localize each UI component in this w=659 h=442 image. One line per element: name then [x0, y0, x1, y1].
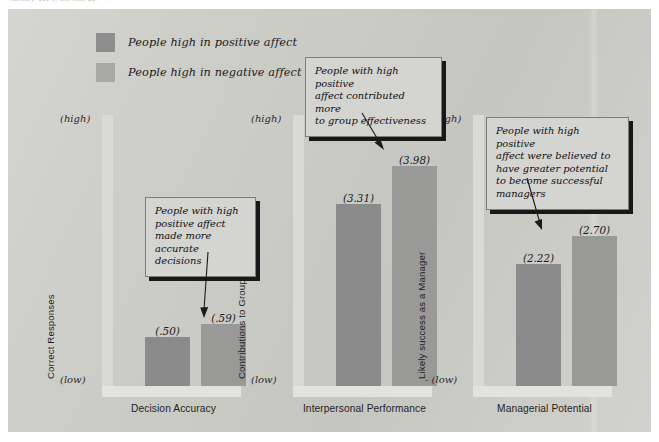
bar-positive-2: (3.31): [336, 204, 381, 386]
bar-rect-2-positive: [336, 204, 381, 386]
callout-managerial-potential: People with high positive affect were be…: [486, 117, 629, 210]
y-axis-title-1: Correct Responses: [45, 294, 56, 379]
legend-item-negative: People high in negative affect: [96, 61, 302, 84]
axis-high-label-2: (high): [251, 113, 281, 124]
bar-rect-3-negative: [572, 236, 617, 386]
legend-swatch-positive: [96, 33, 115, 52]
x-axis-bar-1: [102, 386, 241, 397]
y-axis-bar-1: [102, 115, 113, 387]
x-axis-title-2: Interpersonal Performance: [293, 403, 436, 414]
chart-panel-interpersonal-performance: (high) (low) Contributions to Group Effe…: [251, 113, 436, 413]
chart-legend: People high in positive affect People hi…: [96, 31, 302, 91]
bar-value-label-3-negative: (2.70): [579, 224, 610, 236]
legend-label-positive: People high in positive affect: [128, 36, 297, 49]
legend-swatch-negative: [96, 63, 115, 82]
axis-low-label-3: - (low): [425, 374, 457, 385]
top-caption: nanuary, 1994), see note 23.: [10, 0, 97, 3]
bar-positive-3: (2.22): [516, 264, 561, 386]
bar-positive-1: (.50): [145, 337, 190, 386]
bar-rect-1-positive: [145, 337, 190, 386]
bar-negative-3: (2.70): [572, 236, 617, 386]
y-axis-title-3: Likely success as a Manager: [416, 252, 427, 379]
axis-low-label-2: (low): [251, 374, 277, 385]
plot-area-2: (3.31) (3.98): [304, 115, 432, 386]
callout-text-3: People with high positive affect were be…: [496, 125, 619, 201]
axis-high-label-1: (high): [60, 113, 90, 124]
bar-value-label-3-positive: (2.22): [523, 252, 554, 264]
bar-group-2: (3.31) (3.98): [304, 115, 432, 386]
x-axis-title-3: Managerial Potential: [473, 403, 616, 414]
y-axis-bar-3: [473, 115, 484, 387]
callout-arrow-1-icon: [194, 252, 222, 322]
x-axis-title-1: Decision Accuracy: [102, 403, 245, 414]
callout-arrow-3-icon: [523, 177, 553, 235]
legend-item-positive: People high in positive affect: [96, 31, 302, 54]
bar-rect-3-positive: [516, 264, 561, 386]
y-axis-bar-2: [293, 115, 304, 387]
axis-low-label-1: (low): [60, 374, 86, 385]
callout-arrow-2-icon: [360, 111, 390, 155]
x-axis-bar-2: [293, 386, 432, 397]
bar-value-label-2-negative: (3.98): [399, 154, 430, 166]
x-axis-bar-3: [473, 386, 612, 397]
bar-value-label-1-positive: (.50): [155, 325, 180, 337]
bar-value-label-2-positive: (3.31): [343, 192, 374, 204]
figure-plate: People high in positive affect People hi…: [8, 9, 651, 432]
legend-label-negative: People high in negative affect: [128, 66, 302, 79]
